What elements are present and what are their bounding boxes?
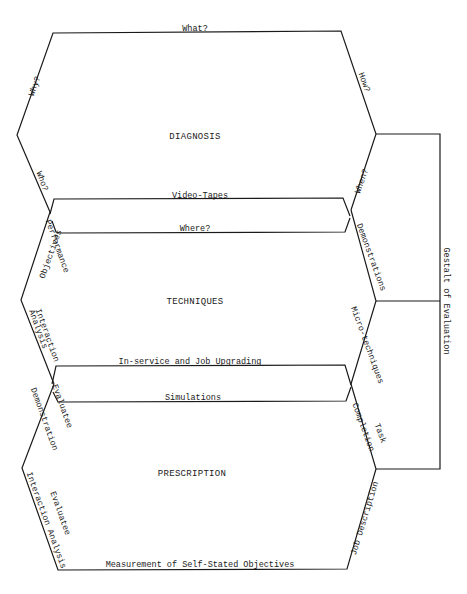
diagnosis-shape: [17, 31, 376, 212]
label-evaluatee-1: Evaluatee: [49, 383, 74, 430]
gestalt-bracket: [376, 134, 440, 469]
evaluation-diagram: DIAGNOSIS TECHNIQUES PRESCRIPTION What? …: [0, 0, 467, 594]
label-when: When?: [353, 168, 371, 195]
label-video-tapes: Video-Tapes: [172, 191, 228, 201]
label-where: Where?: [180, 224, 211, 234]
stage-prescription: PRESCRIPTION: [158, 469, 226, 479]
label-completion: Completion: [349, 402, 376, 453]
label-gestalt: Gestalt of Evaluation: [441, 247, 451, 354]
label-job-description: Job Description: [349, 480, 381, 556]
stage-techniques: TECHNIQUES: [166, 297, 223, 307]
label-measurement: Measurement of Self-Stated Objectives: [106, 560, 295, 570]
label-what: What?: [182, 24, 208, 34]
label-in-service: In-service and Job Upgrading: [119, 357, 262, 367]
label-why: Why?: [27, 75, 43, 98]
label-who: Who?: [34, 170, 50, 193]
label-simulations: Simulations: [165, 393, 221, 403]
stage-diagnosis: DIAGNOSIS: [169, 132, 220, 142]
